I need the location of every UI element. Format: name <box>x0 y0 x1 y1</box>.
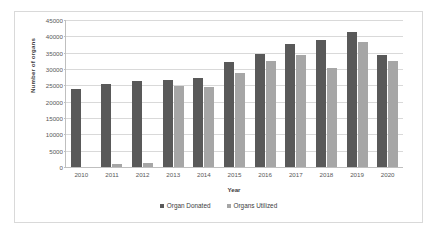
bar <box>101 84 111 167</box>
bar-group <box>342 20 373 167</box>
legend-entry[interactable]: Organ Donated <box>160 202 211 209</box>
bar <box>347 32 357 167</box>
x-tick-label: 2012 <box>136 171 150 178</box>
x-tick-label: 2017 <box>289 171 303 178</box>
x-tick-label: 2018 <box>320 171 334 178</box>
bar-group <box>127 20 158 167</box>
chart-figure: Number of organs 05000100001500020000250… <box>0 0 437 244</box>
x-axis-title: Year <box>65 186 403 193</box>
bar <box>266 61 276 167</box>
y-tick-label: 35000 <box>46 49 63 56</box>
bar <box>358 42 368 167</box>
x-tick-label: 2020 <box>381 171 395 178</box>
x-tick-label: 2014 <box>197 171 211 178</box>
y-tick-label: 40000 <box>46 33 63 40</box>
bar <box>327 68 337 167</box>
bar-group <box>219 20 250 167</box>
bar <box>132 81 142 167</box>
y-tick-label: 10000 <box>46 131 63 138</box>
x-tick-label: 2019 <box>350 171 364 178</box>
y-tick-label: 20000 <box>46 98 63 105</box>
bar-group <box>66 20 97 167</box>
bar <box>388 61 398 167</box>
bar-group <box>311 20 342 167</box>
y-tick-label: 15000 <box>46 115 63 122</box>
chart-legend: Organ DonatedOrgans Utilized <box>15 202 422 209</box>
bar <box>235 73 245 167</box>
x-tick-label: 2013 <box>166 171 180 178</box>
bar <box>71 89 81 167</box>
legend-label: Organs Utilized <box>234 202 278 209</box>
bar-group <box>189 20 220 167</box>
y-tick-label: 30000 <box>46 66 63 73</box>
bar <box>296 55 306 167</box>
x-tick-label: 2011 <box>105 171 118 178</box>
bar <box>204 87 214 167</box>
y-tick-label: 0 <box>60 164 63 171</box>
y-tick-mark <box>64 167 66 168</box>
legend-entry[interactable]: Organs Utilized <box>227 202 278 209</box>
x-tick-label: 2016 <box>258 171 272 178</box>
bar <box>285 44 295 167</box>
bar <box>316 40 326 167</box>
bar-group <box>97 20 128 167</box>
legend-swatch-icon <box>227 204 231 208</box>
bar <box>163 80 173 167</box>
bar <box>174 86 184 167</box>
y-tick-label: 45000 <box>46 17 63 24</box>
y-axis-title: Number of organs <box>29 11 36 121</box>
legend-swatch-icon <box>160 204 164 208</box>
bar <box>377 55 387 167</box>
bar-group <box>372 20 403 167</box>
bar-group <box>158 20 189 167</box>
bar <box>224 62 234 167</box>
bar <box>255 54 265 167</box>
bar-group <box>250 20 281 167</box>
bar-group <box>280 20 311 167</box>
chart-frame: Number of organs 05000100001500020000250… <box>14 11 423 223</box>
bar <box>193 78 203 168</box>
legend-label: Organ Donated <box>167 202 211 209</box>
y-tick-label: 5000 <box>49 147 63 154</box>
x-tick-label: 2015 <box>228 171 242 178</box>
bar <box>143 163 153 167</box>
plot-area: 0500010000150002000025000300003500040000… <box>65 20 403 168</box>
y-tick-label: 25000 <box>46 82 63 89</box>
bar <box>112 164 122 167</box>
bars-layer <box>66 20 403 167</box>
x-tick-label: 2010 <box>74 171 88 178</box>
